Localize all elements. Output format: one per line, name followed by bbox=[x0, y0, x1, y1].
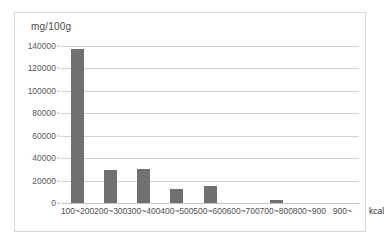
x-axis-tick-labels: 100~200200~300300~400400~500500~600600~7… bbox=[61, 206, 373, 222]
y-axis-tick-mark bbox=[57, 46, 60, 47]
bar[interactable] bbox=[204, 186, 217, 203]
x-axis-unit-label: kcal bbox=[369, 206, 384, 216]
y-axis-tick-label: 120000 bbox=[28, 63, 56, 73]
gridline bbox=[61, 203, 359, 204]
gridline bbox=[61, 158, 359, 159]
y-axis-tick-mark bbox=[57, 90, 60, 91]
gridline bbox=[61, 113, 359, 114]
x-axis-tick-label: 200~300 bbox=[94, 206, 127, 216]
y-axis-tick-mark bbox=[57, 158, 60, 159]
gridline bbox=[61, 91, 359, 92]
y-axis-tick-label: 100000 bbox=[28, 86, 56, 96]
y-axis-tick-mark bbox=[57, 203, 60, 204]
bar[interactable] bbox=[137, 169, 150, 203]
gridline bbox=[61, 46, 359, 47]
gridline bbox=[61, 68, 359, 69]
plot-area: 020000400006000080000100000120000140000 bbox=[61, 46, 359, 203]
y-axis-tick-label: 0 bbox=[51, 198, 56, 208]
bar[interactable] bbox=[104, 170, 117, 203]
x-axis-tick-label: 100~200 bbox=[61, 206, 94, 216]
bar[interactable] bbox=[170, 189, 183, 203]
y-axis-tick-label: 80000 bbox=[32, 108, 56, 118]
y-axis-tick-label: 60000 bbox=[32, 131, 56, 141]
y-axis-tick-mark bbox=[57, 180, 60, 181]
bar[interactable] bbox=[71, 49, 84, 203]
y-axis-tick-label: 20000 bbox=[32, 176, 56, 186]
y-axis-title: mg/100g bbox=[31, 21, 71, 32]
y-axis-tick-mark bbox=[57, 135, 60, 136]
x-axis-tick-label: 600~700 bbox=[226, 206, 259, 216]
y-axis-tick-mark bbox=[57, 113, 60, 114]
gridline bbox=[61, 136, 359, 137]
y-axis-tick-mark bbox=[57, 68, 60, 69]
bar[interactable] bbox=[270, 200, 283, 203]
x-axis-tick-label: 900~ bbox=[333, 206, 352, 216]
chart-frame: mg/100g 02000040000600008000010000012000… bbox=[14, 12, 366, 232]
y-axis-tick-label: 140000 bbox=[28, 41, 56, 51]
x-axis-tick-label: 500~600 bbox=[193, 206, 226, 216]
x-axis-tick-label: 400~500 bbox=[160, 206, 193, 216]
x-axis-tick-label: 300~400 bbox=[127, 206, 160, 216]
x-axis-tick-label: 700~800 bbox=[260, 206, 293, 216]
y-axis-tick-label: 40000 bbox=[32, 153, 56, 163]
x-axis-tick-label: 800~900 bbox=[293, 206, 326, 216]
